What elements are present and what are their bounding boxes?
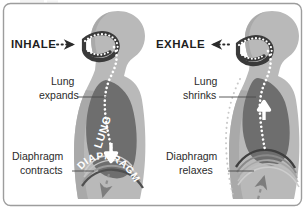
- callout-lung-expands-line2: expands: [39, 89, 79, 101]
- callout-diaphragm-contracts-line1: Diaphragm: [12, 150, 64, 162]
- callout-lung-shrinks-line2: shrinks: [183, 89, 216, 101]
- callout-diaphragm-contracts-line2: contracts: [20, 164, 63, 176]
- breathing-diagram: LUNG DIAPHRAGM INHALE Lung expands Diaph…: [0, 0, 305, 217]
- cropped-caption-remnant: [20, 0, 58, 3]
- callout-lung-shrinks-line1: Lung: [194, 75, 218, 87]
- callout-diaphragm-relaxes-line2: relaxes: [179, 164, 213, 176]
- callout-diaphragm-relaxes-line1: Diaphragm: [166, 150, 218, 162]
- panel-title-inhale: INHALE: [11, 38, 56, 50]
- callout-lung-expands-line1: Lung: [51, 75, 75, 87]
- panel-title-exhale: EXHALE: [156, 38, 205, 50]
